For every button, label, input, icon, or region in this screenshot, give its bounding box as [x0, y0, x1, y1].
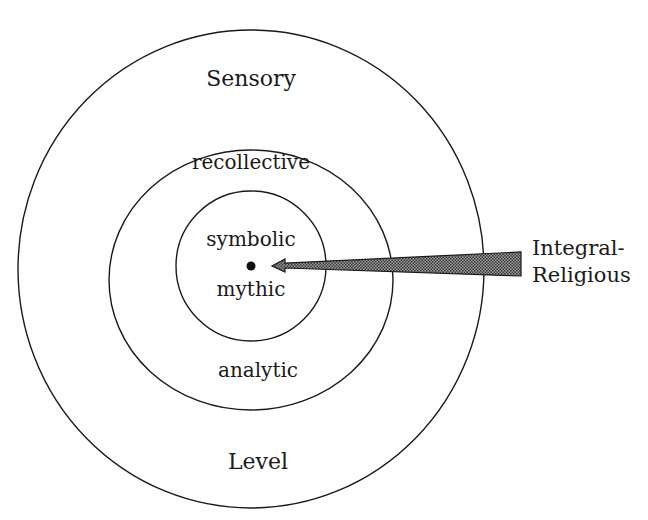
arrow-label-line1: Integral-: [532, 236, 625, 260]
outer-bottom-label: Level: [228, 449, 288, 474]
arrow-icon: [272, 252, 521, 276]
center-dot: [247, 262, 256, 271]
middle-top-label: recollective: [192, 150, 310, 174]
arrow-label-line2: Religious: [532, 263, 631, 287]
middle-bottom-label: analytic: [218, 358, 298, 382]
outer-top-label: Sensory: [206, 66, 296, 91]
inner-bottom-label: mythic: [217, 277, 286, 301]
inner-top-label: symbolic: [206, 227, 295, 251]
concentric-diagram: Sensory recollective symbolic mythic ana…: [0, 0, 648, 520]
